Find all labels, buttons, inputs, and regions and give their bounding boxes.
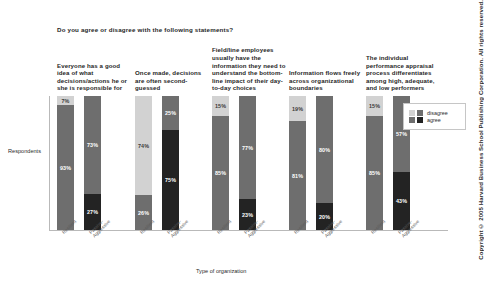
bar-segment-disagree: 25% xyxy=(162,96,179,130)
chart-question: Do you agree or disagree with the follow… xyxy=(57,26,233,33)
bar-segment-agree: 85% xyxy=(212,116,229,230)
bar-segment-disagree: 73% xyxy=(84,96,101,194)
statement-header: Everyone has a good idea of what decisio… xyxy=(57,62,131,92)
bar-group: Once made, decisions are often second-gu… xyxy=(135,96,209,230)
statement-header: Field/line employees usually have the in… xyxy=(212,46,286,92)
stacked-bar[interactable]: 19%81% xyxy=(289,96,306,230)
legend-item-disagree[interactable]: disagree xyxy=(409,110,461,116)
stacked-bar[interactable]: 77%23% xyxy=(239,96,256,230)
stacked-bar[interactable]: 7%93% xyxy=(57,96,74,230)
legend-swatch-disagree-resilient xyxy=(409,110,415,116)
plot-area: Everyone has a good idea of what decisio… xyxy=(49,96,447,230)
legend-swatch-agree-resilient xyxy=(409,117,415,123)
statement-header: Information flows freely across organiza… xyxy=(289,69,363,92)
legend-label-agree: agree xyxy=(427,117,441,123)
stacked-bar[interactable]: 74%26% xyxy=(135,96,152,230)
x-axis-label: Type of organization xyxy=(196,268,246,274)
bar-group: Information flows freely across organiza… xyxy=(289,96,363,230)
bar-segment-agree: 85% xyxy=(366,116,383,230)
stacked-bar[interactable]: 25%75% xyxy=(162,96,179,230)
bar-segment-agree: 81% xyxy=(289,121,306,230)
legend-swatch-disagree-passive xyxy=(417,110,423,116)
bar-segment-agree: 93% xyxy=(57,105,74,230)
bar-segment-disagree: 15% xyxy=(212,96,229,116)
stacked-bar[interactable]: 15%85% xyxy=(212,96,229,230)
bar-group: Field/line employees usually have the in… xyxy=(212,96,286,230)
bar-group: Everyone has a good idea of what decisio… xyxy=(57,96,131,230)
chart-legend: disagree agree xyxy=(403,103,466,130)
statement-header: Once made, decisions are often second-gu… xyxy=(135,69,209,92)
stacked-bar[interactable]: 73%27% xyxy=(84,96,101,230)
copyright-text: Copyright © 2005 Harvard Business School… xyxy=(478,0,484,262)
stacked-bar[interactable]: 80%20% xyxy=(316,96,333,230)
legend-swatch-agree-passive xyxy=(417,117,423,123)
legend-label-disagree: disagree xyxy=(427,110,448,116)
bar-segment-disagree: 77% xyxy=(239,96,256,199)
bar-segment-disagree: 19% xyxy=(289,96,306,121)
bar-segment-disagree: 74% xyxy=(135,96,152,195)
bar-segment-disagree: 80% xyxy=(316,96,333,203)
chart-page: Do you agree or disagree with the follow… xyxy=(0,0,487,300)
y-axis-label: Respondents xyxy=(8,148,41,154)
bar-segment-disagree: 15% xyxy=(366,96,383,116)
statement-header: The individual performance appraisal pro… xyxy=(366,54,440,92)
legend-item-agree[interactable]: agree xyxy=(409,117,461,123)
bar-segment-agree: 75% xyxy=(162,130,179,231)
stacked-bar[interactable]: 15%85% xyxy=(366,96,383,230)
copyright-notice: Copyright © 2005 Harvard Business School… xyxy=(474,0,487,300)
bar-segment-disagree: 7% xyxy=(57,96,74,105)
